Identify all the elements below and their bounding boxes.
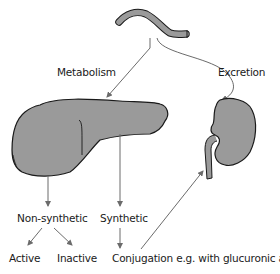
arrow-to-active <box>28 228 42 245</box>
label-synthetic: Synthetic <box>100 213 148 224</box>
liver-icon <box>12 99 168 176</box>
label-inactive: Inactive <box>57 253 97 264</box>
kidney-icon <box>205 98 256 179</box>
label-metabolism: Metabolism <box>57 67 116 78</box>
arrow-conjugation-to-kidney <box>141 171 203 249</box>
label-conjugation: Conjugation e.g. with glucuronic acid <box>112 253 280 264</box>
diagram-canvas <box>0 0 280 274</box>
label-excretion: Excretion <box>218 67 265 78</box>
label-non-synthetic: Non-synthetic <box>17 213 88 224</box>
arrow-to-inactive <box>54 228 72 245</box>
label-active: Active <box>9 253 40 264</box>
drug-metabolism-diagram: Metabolism Excretion Non-synthetic Synth… <box>0 0 280 274</box>
intestine-icon <box>119 12 187 38</box>
